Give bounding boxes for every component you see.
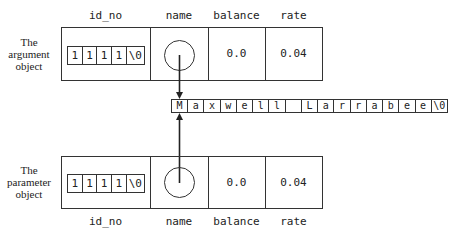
- parameter-label-line-3: object: [0, 188, 58, 200]
- parameter-id-char: \0: [127, 175, 145, 192]
- argument-pointer-arrow-icon: [176, 55, 183, 99]
- parameter-label-line-1: The: [0, 164, 58, 176]
- parameter-rate-value: 0.04: [265, 177, 322, 189]
- parameter-label-line-2: parameter: [0, 176, 58, 188]
- bottom-header-rate: rate: [265, 216, 322, 228]
- bottom-header-balance: balance: [208, 216, 265, 228]
- parameter-id-no-array: 1 1 1 1 \0: [67, 174, 145, 193]
- parameter-balance-value: 0.0: [208, 177, 265, 189]
- parameter-id-char: 1: [112, 175, 127, 192]
- parameter-id-char: 1: [68, 175, 83, 192]
- bottom-header-id-no: id_no: [61, 216, 150, 228]
- bottom-header-name: name: [150, 216, 208, 228]
- parameter-object-label: The parameter object: [0, 164, 58, 200]
- parameter-divider-1: [150, 156, 151, 209]
- parameter-name-pointer-circle: [164, 167, 195, 198]
- parameter-id-char: 1: [83, 175, 98, 192]
- parameter-id-char: 1: [97, 175, 112, 192]
